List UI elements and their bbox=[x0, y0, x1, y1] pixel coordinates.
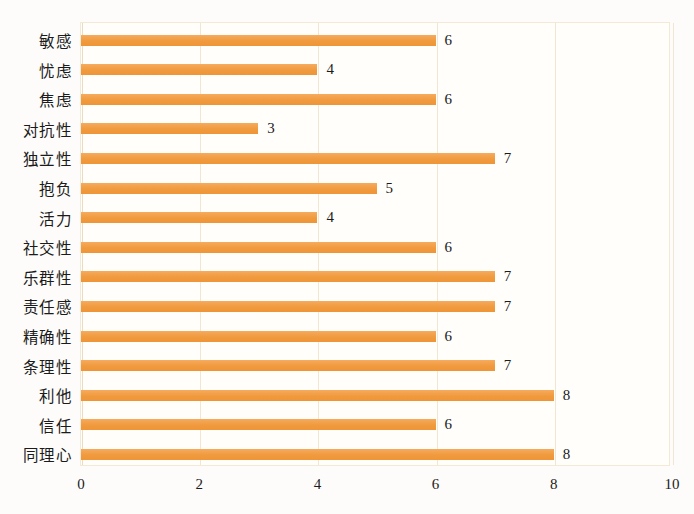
bar bbox=[81, 360, 495, 371]
bar-row: 独立性7 bbox=[0, 143, 694, 173]
bar-value-label: 5 bbox=[386, 180, 394, 197]
bar-row: 敏感6 bbox=[0, 25, 694, 55]
bar-value-label: 4 bbox=[326, 61, 334, 78]
bar bbox=[81, 271, 495, 282]
x-tick-label: 2 bbox=[195, 476, 203, 493]
category-label: 精确性 bbox=[0, 325, 72, 347]
bar bbox=[81, 331, 436, 342]
bar-row: 忧虑4 bbox=[0, 55, 694, 85]
x-tick-label: 4 bbox=[314, 476, 322, 493]
bar bbox=[81, 94, 436, 105]
bar-value-label: 7 bbox=[504, 150, 512, 167]
x-tick-label: 6 bbox=[432, 476, 440, 493]
category-label: 敏感 bbox=[0, 29, 72, 51]
category-label: 信任 bbox=[0, 414, 72, 436]
bar-row: 精确性6 bbox=[0, 321, 694, 351]
bar-value-label: 8 bbox=[563, 446, 571, 463]
category-label: 对抗性 bbox=[0, 118, 72, 140]
bar-value-label: 6 bbox=[445, 328, 453, 345]
category-label: 责任感 bbox=[0, 295, 72, 317]
x-tick-label: 0 bbox=[77, 476, 85, 493]
bar-value-label: 6 bbox=[445, 239, 453, 256]
bar-chart: 敏感6忧虑4焦虑6对抗性3独立性7抱负5活力4社交性6乐群性7责任感7精确性6条… bbox=[0, 0, 694, 514]
bar bbox=[81, 242, 436, 253]
bar-row: 责任感7 bbox=[0, 291, 694, 321]
category-label: 利他 bbox=[0, 384, 72, 406]
bar-row: 乐群性7 bbox=[0, 262, 694, 292]
bar-row: 对抗性3 bbox=[0, 114, 694, 144]
bar-row: 条理性7 bbox=[0, 351, 694, 381]
x-tick-label: 10 bbox=[665, 476, 680, 493]
category-label: 抱负 bbox=[0, 177, 72, 199]
bar-rows: 敏感6忧虑4焦虑6对抗性3独立性7抱负5活力4社交性6乐群性7责任感7精确性6条… bbox=[0, 22, 694, 466]
bar bbox=[81, 183, 377, 194]
bar bbox=[81, 64, 317, 75]
bar-value-label: 6 bbox=[445, 91, 453, 108]
bar-row: 信任6 bbox=[0, 410, 694, 440]
bar-row: 社交性6 bbox=[0, 232, 694, 262]
category-label: 条理性 bbox=[0, 355, 72, 377]
category-label: 焦虑 bbox=[0, 88, 72, 110]
bar bbox=[81, 390, 554, 401]
category-label: 同理心 bbox=[0, 443, 72, 465]
bar-row: 活力4 bbox=[0, 203, 694, 233]
bar-value-label: 7 bbox=[504, 298, 512, 315]
bar-value-label: 6 bbox=[445, 32, 453, 49]
category-label: 独立性 bbox=[0, 147, 72, 169]
bar-value-label: 6 bbox=[445, 416, 453, 433]
bar bbox=[81, 449, 554, 460]
category-label: 活力 bbox=[0, 207, 72, 229]
bar bbox=[81, 419, 436, 430]
bar-value-label: 7 bbox=[504, 268, 512, 285]
bar-value-label: 3 bbox=[267, 120, 275, 137]
category-label: 乐群性 bbox=[0, 266, 72, 288]
bar-row: 同理心8 bbox=[0, 439, 694, 469]
bar-value-label: 8 bbox=[563, 387, 571, 404]
x-tick-label: 8 bbox=[550, 476, 558, 493]
bar-row: 焦虑6 bbox=[0, 84, 694, 114]
bar-value-label: 4 bbox=[326, 209, 334, 226]
bar bbox=[81, 35, 436, 46]
category-label: 社交性 bbox=[0, 236, 72, 258]
bar-value-label: 7 bbox=[504, 357, 512, 374]
bar bbox=[81, 301, 495, 312]
bar bbox=[81, 123, 258, 134]
bar bbox=[81, 212, 317, 223]
category-label: 忧虑 bbox=[0, 59, 72, 81]
bar-row: 抱负5 bbox=[0, 173, 694, 203]
bar-row: 利他8 bbox=[0, 380, 694, 410]
x-axis: 0246810 bbox=[0, 466, 694, 514]
bar bbox=[81, 153, 495, 164]
